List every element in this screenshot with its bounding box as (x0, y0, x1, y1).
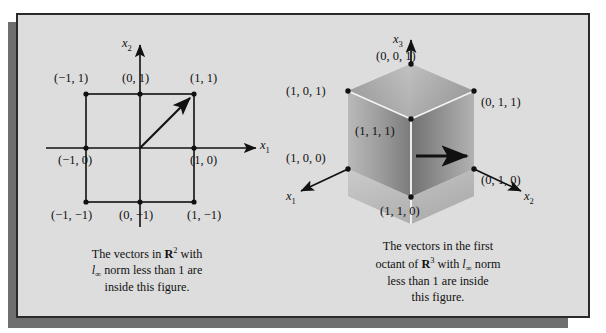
right-caption: The vectors in the first octant of R3 wi… (338, 239, 538, 305)
cube-vertex-dot (471, 88, 476, 93)
figure-panel: x2 x1 (−1, 1) (0, 1) (1, 1) (−1, 0) (1, … (16, 13, 590, 318)
vertex-label-top-right: (1, 1) (190, 72, 217, 85)
cube-vertex-dot (408, 116, 413, 121)
vertex-label-top-left: (−1, 1) (54, 72, 88, 85)
x1-axis-label-3d: x1 (286, 190, 296, 205)
vertex-dot (191, 91, 196, 96)
blackboard-r-icon: R (421, 257, 430, 271)
cube-vertex-dot (345, 166, 350, 171)
left-caption-line-1: The vectors in R2 with (52, 245, 242, 263)
cube-vertex-label-center: (1, 1, 1) (355, 125, 395, 138)
x1-axis-label: x1 (260, 139, 270, 154)
vertex-dot (83, 91, 88, 96)
x3-axis-label: x3 (393, 33, 403, 48)
right-caption-line-2: octant of R3 with l∞ norm (338, 255, 538, 274)
left-caption-line-2: l∞ norm less than 1 are (52, 263, 242, 280)
cube-vertex-label-top-left: (1, 0, 1) (286, 85, 326, 98)
cube-vertex-dot (345, 88, 350, 93)
cube-vertex-label-left-base: (1, 0, 0) (286, 152, 326, 165)
right-caption-line-4: this figure. (338, 290, 538, 306)
cube-vertex-label-top-right: (0, 1, 1) (481, 96, 521, 109)
vertex-dot (191, 199, 196, 204)
cube-vertex-label-right-base: (0, 1, 0) (481, 174, 521, 187)
left-caption-line-3: inside this figure. (52, 280, 242, 296)
left-caption: The vectors in R2 with l∞ norm less than… (52, 245, 242, 296)
cube-vertex-dot (408, 194, 413, 199)
vertex-label-bottom-left: (−1, −1) (51, 209, 92, 222)
x2-axis-label-3d: x2 (524, 190, 534, 205)
cube-vertex-dot (471, 166, 476, 171)
vector-arrow (140, 98, 190, 148)
vertex-dot (191, 145, 196, 150)
right-caption-line-1: The vectors in the first (338, 239, 538, 255)
right-caption-line-3: less than 1 are inside (338, 274, 538, 290)
x2-axis-label: x2 (122, 37, 132, 52)
vertex-label-bottom-right: (1, −1) (187, 209, 221, 222)
vertex-label-bottom-mid: (0, −1) (119, 209, 153, 222)
vertex-dot (83, 199, 88, 204)
right-3d-figure (301, 40, 521, 224)
vertex-label-mid-left: (−1, 0) (58, 154, 92, 167)
cube-vertex-label-top-apex: (0, 0, 1) (376, 50, 416, 63)
vertex-label-mid-right: (1, 0) (190, 154, 217, 167)
cube-vertex-label-bottom: (1, 1, 0) (380, 205, 420, 218)
blackboard-r-icon: R (164, 247, 173, 261)
vertex-dot (83, 145, 88, 150)
vertex-label-top-mid: (0, 1) (122, 72, 149, 85)
vertex-dot (137, 91, 142, 96)
x1-axis-3d (301, 169, 348, 191)
figure-root: x2 x1 (−1, 1) (0, 1) (1, 1) (−1, 0) (1, … (0, 0, 606, 333)
vertex-dot (137, 199, 142, 204)
